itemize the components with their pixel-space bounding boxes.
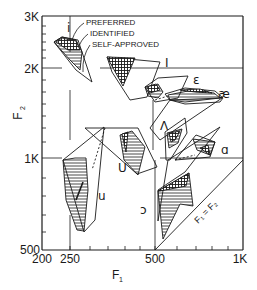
vowel-formant-chart: 3K 2K 1K 500 200 250 500 1K F 1 F 2 PREF… xyxy=(0,0,257,290)
vowel-region-u xyxy=(63,127,104,232)
svg-text:PREFERRED: PREFERRED xyxy=(86,18,136,27)
svg-text:F₁ = F₂: F₁ = F₂ xyxy=(192,198,219,225)
svg-text:F: F xyxy=(11,112,25,119)
svg-text:2K: 2K xyxy=(24,62,39,76)
vowel-label-i: i xyxy=(67,21,70,35)
x-axis-title: F 1 xyxy=(112,268,123,283)
vowel-label-epsilon: ε xyxy=(193,73,200,87)
vowel-label-a: ɑ xyxy=(221,143,229,157)
svg-text:3K: 3K xyxy=(24,10,39,24)
svg-text:1K: 1K xyxy=(24,152,39,166)
y-tick-labels: 3K 2K 1K 500 xyxy=(20,10,40,257)
vowel-label-u: u xyxy=(98,189,106,203)
vowel-label-I: I xyxy=(165,56,169,70)
svg-text:IDENTIFIED: IDENTIFIED xyxy=(90,29,135,38)
svg-text:200: 200 xyxy=(32,252,52,266)
vowel-label-ae: æ xyxy=(218,87,230,101)
vowel-label-wedge: Λ xyxy=(160,119,169,133)
y-axis-title: F 2 xyxy=(11,106,26,120)
svg-text:1: 1 xyxy=(119,276,123,283)
svg-text:250: 250 xyxy=(60,252,80,266)
vowel-region-i xyxy=(54,37,92,82)
vowel-label-U: U xyxy=(118,161,127,175)
svg-text:500: 500 xyxy=(145,252,165,266)
legend-pointer-preferred xyxy=(72,23,84,40)
x-tick-labels: 200 250 500 1K xyxy=(32,252,247,266)
vowel-region-a xyxy=(175,135,215,160)
svg-text:2: 2 xyxy=(19,106,26,110)
vowel-labels: i I ε æ Λ ɑ U u ɔ xyxy=(67,21,230,217)
vowel-label-open-o: ɔ xyxy=(140,203,147,217)
svg-text:SELF-APPROVED: SELF-APPROVED xyxy=(92,40,159,49)
svg-text:1K: 1K xyxy=(233,252,248,266)
